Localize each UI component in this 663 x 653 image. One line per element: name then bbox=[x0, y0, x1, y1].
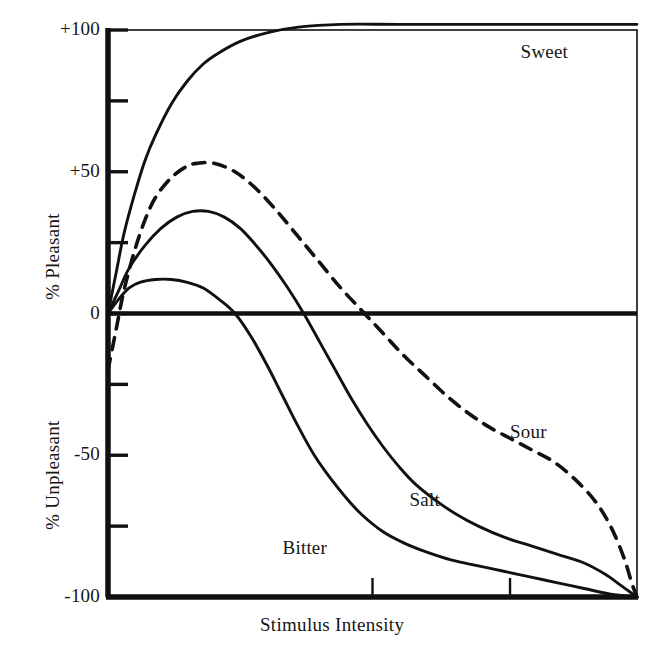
y-tick-label-4: 0 bbox=[90, 302, 100, 324]
x-axis-ticks bbox=[373, 578, 511, 595]
curve-salt bbox=[108, 211, 637, 597]
y-axis-title-pleasant: % Pleasant bbox=[42, 213, 64, 300]
series-label-salt: Salt bbox=[410, 489, 440, 511]
y-tick-label-0: +100 bbox=[60, 18, 100, 40]
y-tick-label-8: -100 bbox=[64, 585, 100, 607]
y-tick-label-2: +50 bbox=[70, 160, 100, 182]
series-curves bbox=[108, 24, 637, 597]
curve-bitter bbox=[108, 279, 637, 597]
y-tick-label-6: -50 bbox=[74, 443, 100, 465]
series-label-sweet: Sweet bbox=[521, 41, 568, 63]
chart-page: +100+500-50-100 SweetSourSaltBitter Stim… bbox=[0, 0, 663, 653]
series-label-bitter: Bitter bbox=[283, 537, 327, 559]
curve-sour bbox=[108, 162, 637, 597]
series-label-sour: Sour bbox=[510, 421, 547, 443]
curve-sweet bbox=[108, 24, 637, 313]
y-axis-title-unpleasant: % Unpleasant bbox=[42, 420, 64, 530]
taste-hedonic-chart bbox=[0, 0, 663, 653]
x-axis-title: Stimulus Intensity bbox=[260, 614, 404, 636]
